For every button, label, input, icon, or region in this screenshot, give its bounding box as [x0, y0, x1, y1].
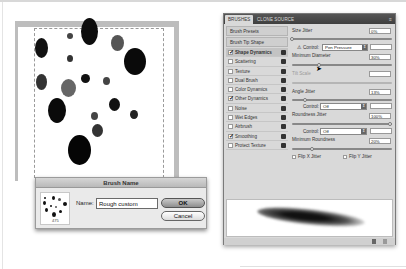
angle-control-extra-field[interactable] — [370, 103, 392, 109]
size-jitter-slider[interactable] — [292, 38, 392, 40]
list-item-other-dynamics[interactable]: Other Dynamics — [226, 94, 288, 103]
checkbox[interactable] — [228, 143, 233, 148]
angle-jitter-label: Angle Jitter — [292, 89, 315, 94]
min-roundness-thumb[interactable] — [310, 147, 314, 151]
lock-icon[interactable] — [281, 124, 286, 129]
checkbox[interactable] — [228, 106, 233, 111]
list-item-label: Dual Brush — [235, 76, 258, 85]
list-item-protect-texture[interactable]: Protect Texture — [226, 141, 288, 150]
size-jitter-thumb[interactable] — [290, 37, 294, 41]
lock-icon[interactable] — [281, 106, 286, 111]
lock-icon[interactable] — [281, 50, 286, 55]
select-value: Pen Pressure — [325, 45, 352, 50]
brush-dot — [61, 79, 76, 97]
size-control-select[interactable]: Pen Pressure⇕ — [322, 44, 368, 51]
trash-icon[interactable] — [383, 239, 387, 244]
panel-tab-bar: BRUSHES CLONE SOURCE ≡ — [224, 14, 395, 24]
list-item-color-dynamics[interactable]: Color Dynamics — [226, 85, 288, 94]
list-item-shape-dynamics[interactable]: Shape Dynamics — [226, 48, 288, 57]
tab-brushes[interactable]: BRUSHES — [225, 15, 253, 24]
checkbox[interactable] — [228, 59, 233, 64]
tilt-scale-value[interactable] — [369, 71, 391, 77]
roundness-jitter-value[interactable]: 100% — [369, 113, 391, 119]
min-roundness-value[interactable]: 20% — [369, 138, 391, 144]
size-jitter-value[interactable]: 0% — [369, 28, 391, 34]
lock-icon[interactable] — [281, 115, 286, 120]
angle-control-select[interactable]: Off⇕ — [320, 103, 367, 110]
list-item-label: Shape Dynamics — [235, 48, 272, 57]
brush-dot — [67, 55, 73, 62]
tilt-scale-label: Tilt Scale — [292, 71, 311, 76]
panel-bottom-bar — [224, 238, 395, 245]
tab-clone-source[interactable]: CLONE SOURCE — [254, 15, 297, 24]
roundness-control-extra-field[interactable] — [370, 128, 392, 134]
size-control-extra-field[interactable] — [370, 44, 392, 50]
top-border — [0, 0, 406, 2]
list-item-noise[interactable]: Noise — [226, 104, 288, 113]
lock-icon[interactable] — [281, 69, 286, 74]
mouse-cursor-icon: ➤ — [316, 65, 322, 73]
angle-jitter-value[interactable]: 13% — [369, 89, 391, 95]
checkbox[interactable] — [228, 124, 233, 129]
list-item-label: Texture — [235, 67, 250, 76]
brush-dot — [124, 48, 146, 75]
brush-dot — [103, 77, 110, 85]
brush-dot — [130, 110, 138, 119]
roundness-control-select[interactable]: Off⇕ — [320, 128, 367, 135]
thumb-dot — [44, 197, 46, 199]
select-value: Off — [323, 104, 329, 109]
select-value: Off — [323, 129, 329, 134]
lock-icon[interactable] — [281, 134, 286, 139]
list-item-dual-brush[interactable]: Dual Brush — [226, 76, 288, 85]
list-item-texture[interactable]: Texture — [226, 67, 288, 76]
lock-icon[interactable] — [281, 87, 286, 92]
list-item-scattering[interactable]: Scattering — [226, 57, 288, 66]
roundness-jitter-slider[interactable] — [292, 123, 392, 125]
angle-jitter-slider[interactable] — [292, 99, 392, 101]
brush-name-input[interactable] — [96, 198, 158, 209]
dropdown-arrow-icon: ⇕ — [361, 104, 366, 109]
lock-icon[interactable] — [281, 59, 286, 64]
brush-thumbnail: 475 — [40, 192, 70, 225]
list-item-label: Color Dynamics — [235, 85, 267, 94]
min-roundness-slider[interactable] — [292, 148, 392, 150]
brushes-panel: BRUSHES CLONE SOURCE ≡ Brush Presets Bru… — [223, 13, 396, 245]
checkbox[interactable] — [228, 134, 233, 139]
brush-presets-button[interactable]: Brush Presets — [226, 26, 288, 36]
checkbox[interactable] — [228, 69, 233, 74]
dropdown-arrow-icon: ⇕ — [362, 45, 367, 50]
lock-icon[interactable] — [281, 143, 286, 148]
thumb-dot — [52, 196, 55, 200]
checkbox[interactable] — [228, 87, 233, 92]
checkbox[interactable] — [228, 50, 233, 55]
cancel-button[interactable]: Cancel — [161, 211, 205, 221]
roundness-jitter-thumb[interactable] — [388, 122, 392, 126]
list-item-airbrush[interactable]: Airbrush — [226, 122, 288, 131]
ok-button[interactable]: OK — [161, 198, 205, 208]
brush-dot — [48, 98, 66, 123]
panel-menu-icon[interactable]: ≡ — [389, 16, 392, 22]
lock-icon[interactable] — [281, 78, 286, 83]
list-item-label: Smoothing — [235, 132, 257, 141]
checkbox[interactable] — [228, 78, 233, 83]
left-border — [2, 2, 3, 269]
min-diameter-value[interactable]: 30% — [369, 54, 391, 60]
list-item-wet-edges[interactable]: Wet Edges — [226, 113, 288, 122]
dialog-title: Brush Name — [36, 178, 206, 188]
thumb-dot — [45, 208, 48, 212]
flip-x-label: Flip X Jitter — [298, 154, 321, 159]
thumb-dot — [58, 198, 61, 201]
list-item-smoothing[interactable]: Smoothing — [226, 132, 288, 141]
tilt-scale-slider[interactable] — [292, 82, 392, 84]
checkbox[interactable] — [228, 96, 233, 101]
brush-dot — [81, 18, 98, 45]
new-brush-icon[interactable] — [372, 239, 376, 244]
checkbox[interactable] — [228, 115, 233, 120]
brush-tip-shape-button[interactable]: Brush Tip Shape — [226, 37, 288, 47]
min-diameter-slider[interactable] — [292, 64, 392, 66]
dropdown-arrow-icon: ⇕ — [361, 129, 366, 134]
flip-x-checkbox[interactable] — [292, 155, 296, 159]
lock-icon[interactable] — [281, 96, 286, 101]
angle-jitter-thumb[interactable] — [303, 98, 307, 102]
flip-y-checkbox[interactable] — [343, 155, 347, 159]
